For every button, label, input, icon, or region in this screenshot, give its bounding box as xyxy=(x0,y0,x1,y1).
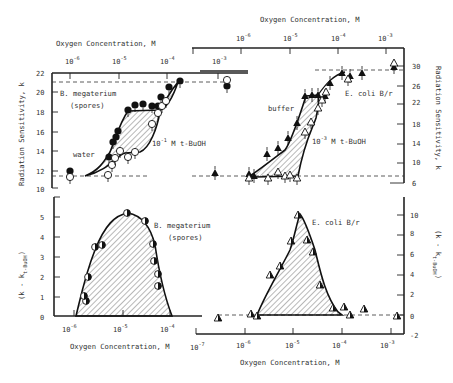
bottom-left-x-ticklabels: 10-6 10-5 10-4 xyxy=(62,323,175,334)
svg-text:6: 6 xyxy=(412,180,416,188)
svg-text:22: 22 xyxy=(36,70,44,78)
svg-text:10-6: 10-6 xyxy=(65,55,80,66)
svg-text:10-5: 10-5 xyxy=(112,55,127,66)
svg-text:10-4: 10-4 xyxy=(332,339,347,350)
svg-text:4: 4 xyxy=(410,271,414,279)
left-y-axis-top-label: Radiation Sensitivity, k xyxy=(17,81,26,186)
svg-text:14: 14 xyxy=(36,148,44,156)
top-left-x-ticklabels: 10-6 10-5 10-4 10-3 xyxy=(65,55,227,66)
annotation-ecoli-tbuoh: 10-3 M t-BuOH xyxy=(312,135,366,146)
annotation-bmeg-top: B. megaterium xyxy=(60,89,116,98)
bottom-right-y-ticklabels: 10 8 6 4 2 0 -2 xyxy=(410,212,418,340)
svg-text:2: 2 xyxy=(410,291,414,299)
svg-text:26: 26 xyxy=(412,83,420,91)
top-left-x-axis-label: Oxygen Concentration, M xyxy=(56,39,156,48)
svg-text:20: 20 xyxy=(36,89,44,97)
svg-text:30: 30 xyxy=(412,63,420,71)
svg-text:12: 12 xyxy=(36,168,44,176)
svg-text:4: 4 xyxy=(40,234,44,242)
svg-text:10-6: 10-6 xyxy=(236,339,251,350)
svg-text:10: 10 xyxy=(36,186,44,194)
top-right-y-ticklabels: 30 26 22 18 14 10 6 xyxy=(412,63,420,188)
svg-text:18: 18 xyxy=(412,121,420,129)
svg-text:10: 10 xyxy=(412,159,420,167)
svg-text:16: 16 xyxy=(36,129,44,137)
annotation-bmeg-tbuoh: 10-1 M t-BuOH xyxy=(152,137,206,148)
top-left-y-ticklabels: 22 20 18 16 14 12 10 xyxy=(36,70,44,194)
svg-text:3: 3 xyxy=(40,254,44,262)
annotation-bmeg-bottom-spores: (spores) xyxy=(168,233,203,242)
bottom-right-x-ticklabels: 10-7 10-6 10-5 10-4 10-3 xyxy=(190,339,395,352)
annotation-bmeg-bottom: B. megaterium xyxy=(154,221,210,230)
svg-text:22: 22 xyxy=(412,99,420,107)
svg-text:10-3: 10-3 xyxy=(378,32,393,43)
bottom-left-y-ticklabels: 5 4 3 2 1 0 xyxy=(40,214,44,322)
svg-text:1: 1 xyxy=(40,294,44,302)
svg-text:10-5: 10-5 xyxy=(283,32,298,43)
bottom-right-x-axis-label: Oxygen Concentration, M xyxy=(240,358,340,367)
annotation-buffer: buffer xyxy=(268,104,295,113)
right-y-axis-bottom-label: (k - kt-BuOH) xyxy=(432,230,443,279)
svg-text:10-5: 10-5 xyxy=(113,323,128,334)
right-y-axis-top-label: Radiation Sensitivity, k xyxy=(434,66,443,171)
svg-text:6: 6 xyxy=(410,251,414,259)
svg-text:10-4: 10-4 xyxy=(331,32,346,43)
svg-text:10-6: 10-6 xyxy=(236,32,251,43)
bottom-left-x-axis-label: Oxygen Concentration, M xyxy=(70,342,170,351)
figure-canvas: Oxygen Concentration, M Oxygen Concentra… xyxy=(0,0,453,383)
svg-text:2: 2 xyxy=(40,274,44,282)
svg-text:18: 18 xyxy=(36,109,44,117)
svg-text:10-5: 10-5 xyxy=(285,339,300,350)
bottom-right-hatched-region xyxy=(257,214,342,315)
svg-text:14: 14 xyxy=(412,140,420,148)
top-right-x-ticklabels: 10-6 10-5 10-4 10-3 xyxy=(236,32,393,43)
svg-text:10-7: 10-7 xyxy=(190,341,205,352)
annotation-ecoli-top: E. coli B/r xyxy=(345,89,393,98)
svg-text:5: 5 xyxy=(40,214,44,222)
svg-text:10-3: 10-3 xyxy=(212,55,227,66)
svg-text:-2: -2 xyxy=(410,332,418,340)
svg-text:10-3: 10-3 xyxy=(380,339,395,350)
left-y-axis-bottom-label: (k - kt-BuOH) xyxy=(17,251,28,300)
svg-text:10-4: 10-4 xyxy=(160,323,175,334)
annotation-bmeg-top-spores: (spores) xyxy=(70,101,105,110)
svg-text:0: 0 xyxy=(410,313,414,321)
svg-text:10-6: 10-6 xyxy=(62,323,77,334)
svg-text:0: 0 xyxy=(40,314,44,322)
svg-text:10: 10 xyxy=(410,212,418,220)
svg-text:10-4: 10-4 xyxy=(160,55,175,66)
annotation-ecoli-bottom: E. coli B/r xyxy=(312,218,360,227)
annotation-water: water xyxy=(73,150,95,159)
top-right-x-axis-label: Oxygen Concentration, M xyxy=(260,15,360,24)
svg-text:8: 8 xyxy=(410,230,414,238)
